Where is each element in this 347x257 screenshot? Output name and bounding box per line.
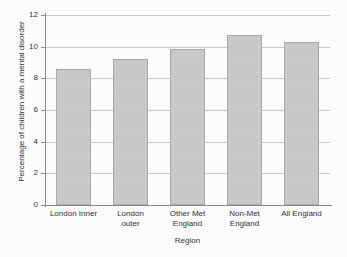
y-axis-title-container: Percentage of children with a mental dis… [0,0,20,220]
bar-chart-figure: Percentage of children with a mental dis… [0,0,347,257]
bar-2[interactable] [170,49,205,205]
bar-1[interactable] [113,59,148,205]
y-tick-label-2: 2 [18,169,38,177]
x-tick-label-line1: All England [267,209,337,219]
y-tick-label-8: 8 [18,74,38,82]
bar-3[interactable] [227,35,262,205]
bar-0[interactable] [56,69,91,205]
x-axis-line [44,205,332,206]
bar-4[interactable] [284,42,319,205]
bars-container [45,15,330,205]
x-tick-label-4: All England [267,209,337,219]
y-tick-label-6: 6 [18,106,38,114]
y-tick-label-10: 10 [18,43,38,51]
x-axis-title: Region [45,236,330,245]
y-tick-label-0: 0 [18,201,38,209]
x-axis-labels: London InnerLondonouterOther MetEnglandN… [45,209,330,239]
x-tick-label-line2: England [210,219,280,229]
y-tick-label-4: 4 [18,138,38,146]
y-tick-label-12: 12 [18,11,38,19]
